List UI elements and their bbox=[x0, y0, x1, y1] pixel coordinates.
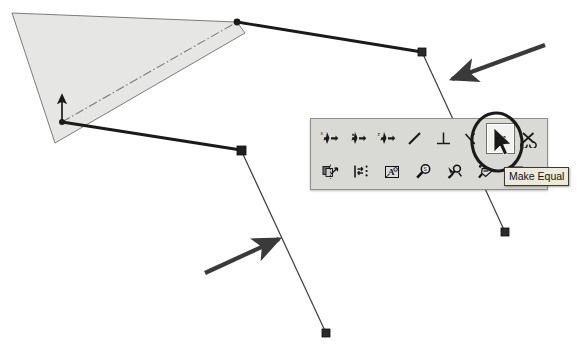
fix-icon[interactable] bbox=[515, 123, 543, 154]
vertex-b[interactable] bbox=[237, 146, 246, 155]
sketch-plane[interactable] bbox=[12, 13, 245, 143]
tooltip-make-equal: Make Equal bbox=[504, 167, 569, 186]
annotation-arrow-lower-left bbox=[205, 239, 279, 273]
endpoint-bottom[interactable] bbox=[322, 329, 330, 337]
vertex-a[interactable] bbox=[418, 48, 426, 56]
linear-pattern-icon[interactable] bbox=[346, 156, 377, 187]
collinear-icon[interactable] bbox=[400, 123, 428, 154]
modify-sketch-icon[interactable]: A bbox=[377, 156, 408, 187]
tooltip-label: Make Equal bbox=[509, 170, 564, 182]
contour-select-icon[interactable] bbox=[470, 156, 501, 187]
segment-top-to-vertex-a[interactable] bbox=[237, 22, 422, 52]
sketch-origin[interactable] bbox=[59, 119, 65, 125]
svg-text:z: z bbox=[377, 130, 380, 136]
make-equal-icon[interactable] bbox=[486, 123, 515, 154]
tangent-icon[interactable] bbox=[457, 123, 485, 154]
display-relations-icon[interactable] bbox=[343, 123, 371, 154]
check-sketch-icon[interactable]: S bbox=[408, 156, 439, 187]
annotation-arrow-upper-right bbox=[452, 45, 545, 79]
repair-sketch-icon[interactable] bbox=[439, 156, 470, 187]
toolbar-row-1: x z bbox=[315, 122, 543, 155]
perpendicular-icon[interactable] bbox=[429, 123, 457, 154]
vertex-top[interactable] bbox=[234, 19, 241, 26]
auto-relations-icon[interactable]: z bbox=[372, 123, 400, 154]
screenshot-stage: x z bbox=[0, 0, 584, 348]
segment-origin-to-vertex-b[interactable] bbox=[62, 122, 241, 150]
svg-text:x: x bbox=[320, 130, 323, 136]
mirror-icon[interactable] bbox=[315, 156, 346, 187]
endpoint-right[interactable] bbox=[501, 228, 509, 236]
add-relation-icon[interactable]: x bbox=[315, 123, 343, 154]
